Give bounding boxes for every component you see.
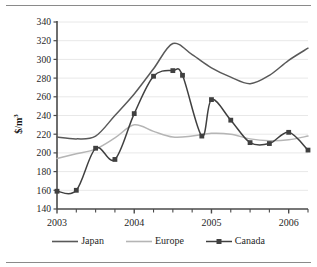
svg-text:320: 320	[37, 35, 52, 46]
legend-item-canada[interactable]: Canada	[206, 236, 265, 246]
x-tick-labels: 2003200420052006	[47, 217, 299, 228]
legend-label-europe: Europe	[155, 236, 184, 246]
x-axis	[57, 209, 308, 214]
svg-text:200: 200	[37, 147, 52, 158]
legend-item-europe[interactable]: Europe	[126, 236, 184, 246]
plot-area: 140160180200220240260280300320340 200320…	[0, 0, 317, 267]
svg-text:140: 140	[37, 203, 52, 214]
chart-figure: 2003–2006 140160180200220240260280300320…	[0, 0, 317, 267]
svg-text:2003: 2003	[47, 217, 67, 228]
svg-text:2006: 2006	[279, 217, 299, 228]
legend-swatch-europe	[126, 237, 152, 246]
series-japan	[57, 43, 308, 139]
divider-bottom	[6, 262, 311, 263]
y-axis	[54, 21, 58, 209]
svg-text:260: 260	[37, 91, 52, 102]
legend-swatch-japan	[52, 237, 78, 246]
y-tick-labels: 140160180200220240260280300320340	[37, 16, 52, 214]
svg-text:300: 300	[37, 54, 52, 65]
svg-text:$/m3: $/m3	[12, 114, 24, 134]
svg-text:280: 280	[37, 73, 52, 84]
y-axis-title: $/m3	[12, 114, 24, 134]
legend-item-japan[interactable]: Japan	[52, 236, 104, 246]
svg-text:2004: 2004	[124, 217, 144, 228]
svg-text:340: 340	[37, 16, 52, 27]
svg-text:2005: 2005	[201, 217, 221, 228]
svg-text:160: 160	[37, 185, 52, 196]
legend-label-japan: Japan	[81, 236, 104, 246]
svg-text:180: 180	[37, 166, 52, 177]
legend-swatch-canada	[206, 237, 232, 246]
chart-legend: Japan Europe Canada	[0, 236, 317, 246]
series-canada	[55, 68, 311, 193]
svg-text:220: 220	[37, 129, 52, 140]
legend-label-canada: Canada	[235, 236, 265, 246]
svg-text:240: 240	[37, 110, 52, 121]
